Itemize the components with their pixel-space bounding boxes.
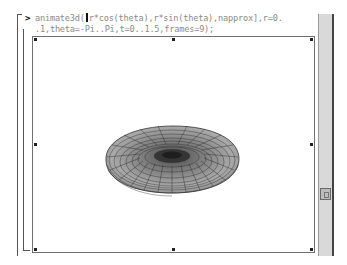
vertical-scrollbar[interactable] (318, 14, 334, 256)
scrollbar-thumb[interactable] (320, 188, 331, 200)
torus-surface-plot (0, 0, 347, 265)
